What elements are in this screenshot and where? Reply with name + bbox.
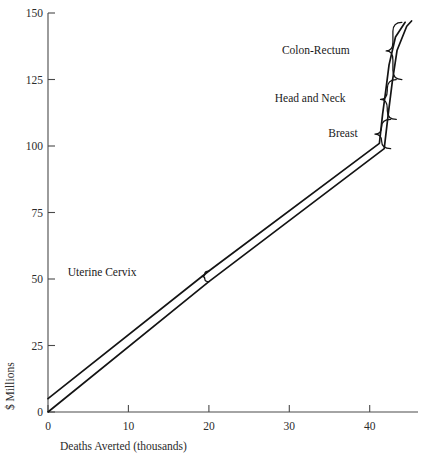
x-axis: 0 10 20 30 40 Deaths Averted (thousands) bbox=[45, 405, 418, 453]
y-tick-label-50: 50 bbox=[32, 273, 44, 285]
x-tick-label-10: 10 bbox=[123, 420, 135, 432]
x-axis-title: Deaths Averted (thousands) bbox=[60, 440, 187, 453]
data-series-group bbox=[48, 21, 412, 412]
y-tick-label-100: 100 bbox=[26, 140, 44, 152]
x-tick-label-0: 0 bbox=[45, 420, 51, 432]
x-tick-label-20: 20 bbox=[203, 420, 215, 432]
annotations-group: Colon-Rectum Head and Neck Breast Uterin… bbox=[68, 22, 402, 281]
annotation-colon-rectum: Colon-Rectum bbox=[282, 22, 402, 79]
y-tick-label-125: 125 bbox=[26, 74, 44, 86]
y-tick-label-150: 150 bbox=[26, 7, 44, 19]
annotation-label-uterine-cervix: Uterine Cervix bbox=[68, 266, 137, 278]
annotation-label-breast: Breast bbox=[328, 127, 358, 139]
upper-bound-cost-curve bbox=[48, 22, 405, 398]
lower-bound-cost-curve bbox=[48, 21, 412, 412]
annotation-head-and-neck: Head and Neck bbox=[275, 80, 397, 120]
x-tick-label-30: 30 bbox=[284, 420, 296, 432]
y-axis-ticks bbox=[48, 13, 55, 412]
y-tick-label-25: 25 bbox=[32, 340, 44, 352]
x-tick-label-40: 40 bbox=[364, 420, 376, 432]
y-tick-label-0: 0 bbox=[37, 406, 43, 418]
y-tick-label-75: 75 bbox=[32, 207, 44, 219]
annotation-label-head-and-neck: Head and Neck bbox=[275, 92, 346, 104]
cost-effectiveness-chart: 150 125 100 75 50 25 0 $ Millions 0 10 2… bbox=[0, 0, 432, 462]
annotation-uterine-cervix: Uterine Cervix bbox=[68, 266, 209, 281]
y-axis-title: $ Millions bbox=[4, 362, 16, 410]
y-axis: 150 125 100 75 50 25 0 $ Millions bbox=[4, 7, 55, 418]
annotation-label-colon-rectum: Colon-Rectum bbox=[282, 44, 350, 56]
x-axis-ticks bbox=[48, 405, 370, 412]
chart-svg: 150 125 100 75 50 25 0 $ Millions 0 10 2… bbox=[0, 0, 432, 462]
